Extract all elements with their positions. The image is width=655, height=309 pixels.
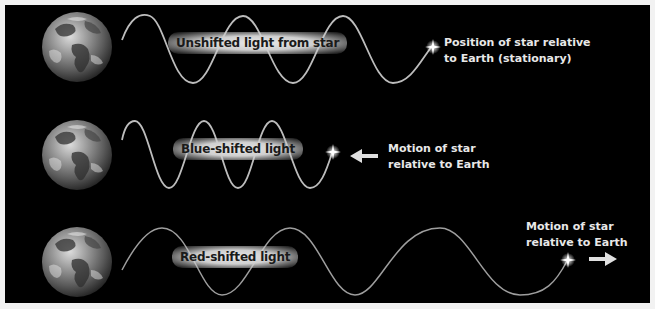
blue-shift-motion-caption: Motion of star relative to Earth (388, 141, 490, 173)
red-shift-motion-caption: Motion of star relative to Earth (526, 219, 628, 251)
unshifted-light-label: Unshifted light from star (168, 32, 347, 54)
stationary-star-caption: Position of star relative to Earth (stat… (444, 35, 591, 67)
earth-globe-icon (42, 12, 112, 82)
caption-line-2: relative to Earth (388, 157, 490, 173)
arrow-left-icon (350, 149, 378, 163)
caption-line-1: Motion of star (388, 141, 490, 157)
caption-line-2: to Earth (stationary) (444, 51, 591, 67)
earth-globe-icon (42, 227, 112, 297)
red-shifted-light-label: Red-shifted light (172, 246, 298, 268)
arrow-right-icon (589, 252, 617, 266)
star-sparkle-icon (560, 252, 576, 268)
earth-globe-icon (42, 120, 112, 190)
caption-line-1: Motion of star (526, 219, 628, 235)
caption-line-2: relative to Earth (526, 235, 628, 251)
caption-line-1: Position of star relative (444, 35, 591, 51)
star-sparkle-icon (325, 144, 341, 160)
blue-shifted-light-label: Blue-shifted light (173, 138, 303, 160)
